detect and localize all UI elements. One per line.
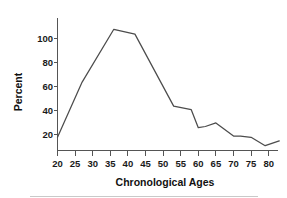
x-tick-label: 55 (175, 158, 186, 169)
x-tick-label: 75 (246, 158, 257, 169)
y-axis-ticks (54, 39, 58, 135)
y-tick-label: 100 (37, 33, 53, 44)
x-tick-label: 60 (193, 158, 204, 169)
chart-figure: 100 80 60 40 20 (0, 0, 287, 198)
x-tick-label: 30 (87, 158, 98, 169)
x-axis-title: Chronological Ages (116, 176, 215, 188)
x-tick-label: 20 (52, 158, 63, 169)
x-tick-label: 25 (70, 158, 81, 169)
x-axis-ticks (58, 151, 269, 156)
x-tick-label: 65 (211, 158, 222, 169)
data-series-line (58, 29, 280, 145)
x-tick-label: 50 (158, 158, 169, 169)
y-tick-label: 60 (42, 81, 53, 92)
y-axis-tick-labels: 100 80 60 40 20 (37, 33, 53, 140)
x-axis-tick-labels: 20 25 30 35 40 45 50 55 60 65 70 75 80 (52, 158, 274, 169)
x-tick-label: 40 (123, 158, 134, 169)
x-tick-label: 80 (263, 158, 274, 169)
x-tick-label: 35 (105, 158, 116, 169)
x-tick-label: 45 (140, 158, 151, 169)
y-axis-title: Percent (12, 72, 24, 111)
line-chart: 100 80 60 40 20 (0, 0, 287, 198)
y-tick-label: 80 (42, 57, 53, 68)
y-tick-label: 20 (42, 129, 53, 140)
y-tick-label: 40 (42, 105, 53, 116)
x-tick-label: 70 (228, 158, 239, 169)
